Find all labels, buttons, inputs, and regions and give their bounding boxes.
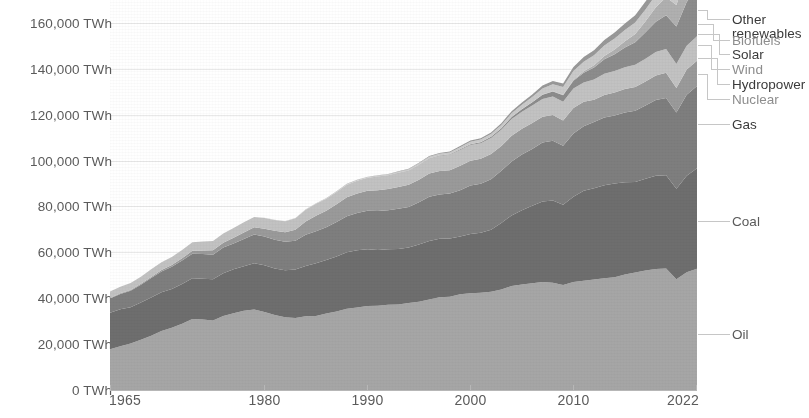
x-axis-tick-label: 1980: [248, 392, 280, 408]
y-axis-tick-label: 140,000 TWh: [4, 61, 112, 76]
x-axis-tick-label: 2000: [454, 392, 486, 408]
legend-connectors: [697, 0, 733, 418]
x-axis-tick-label: 1990: [351, 392, 383, 408]
legend-item-label: Oil: [732, 328, 749, 342]
legend-item-label: Gas: [732, 118, 757, 132]
chart-canvas: 160,000 TWh140,000 TWh120,000 TWh100,000…: [0, 0, 809, 418]
legend-item-label: Coal: [732, 215, 760, 229]
x-axis-tick-mark: [573, 385, 574, 391]
x-axis-tick-mark: [110, 385, 111, 391]
y-axis-tick-label: 0 TWh: [4, 383, 112, 398]
x-axis-tick-label: 2010: [557, 392, 589, 408]
legend-connector-lines: [697, 0, 733, 418]
y-axis-tick-label: 20,000 TWh: [4, 337, 112, 352]
y-axis-tick-label: 80,000 TWh: [4, 199, 112, 214]
x-axis-tick-mark: [470, 385, 471, 391]
legend-item-biofuels[interactable]: Biofuels: [732, 34, 780, 48]
legend-item-label: Nuclear: [732, 93, 779, 107]
legend-item-wind[interactable]: Wind: [732, 63, 763, 77]
legend-item-label: Wind: [732, 63, 763, 77]
legend: OtherrenewablesBiofuelsSolarWindHydropow…: [697, 0, 809, 418]
x-axis-tick-label: 1965: [109, 392, 141, 408]
y-axis-tick-label: 40,000 TWh: [4, 291, 112, 306]
legend-item-label: Biofuels: [732, 34, 780, 48]
area-series-group: [110, 0, 697, 390]
legend-item-label: Other: [732, 13, 802, 27]
legend-item-label: Solar: [732, 48, 764, 62]
legend-item-solar[interactable]: Solar: [732, 48, 764, 62]
legend-item-label: Hydropower: [732, 78, 805, 92]
x-axis-tick-mark: [264, 385, 265, 391]
y-axis-tick-label: 60,000 TWh: [4, 245, 112, 260]
y-axis: 160,000 TWh140,000 TWh120,000 TWh100,000…: [0, 0, 112, 418]
y-axis-tick-label: 160,000 TWh: [4, 15, 112, 30]
legend-item-hydropower[interactable]: Hydropower: [732, 78, 805, 92]
x-axis-tick-mark: [367, 385, 368, 391]
legend-item-coal[interactable]: Coal: [732, 215, 760, 229]
x-axis-baseline: [110, 390, 697, 391]
stacked-area-plot: [110, 0, 697, 390]
y-axis-tick-label: 120,000 TWh: [4, 107, 112, 122]
legend-item-nuclear[interactable]: Nuclear: [732, 93, 779, 107]
y-axis-tick-label: 100,000 TWh: [4, 153, 112, 168]
legend-item-gas[interactable]: Gas: [732, 118, 757, 132]
x-axis-tick-label: 2022: [667, 392, 699, 408]
legend-item-oil[interactable]: Oil: [732, 328, 749, 342]
